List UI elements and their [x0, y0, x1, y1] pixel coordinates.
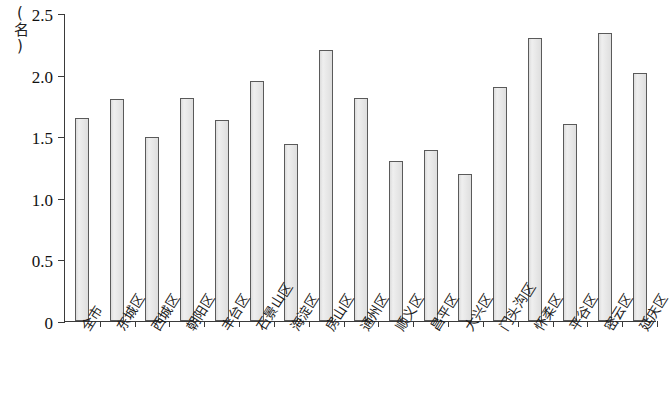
x-axis-labels: 全市东城区西城区朝阳区丰台区石景山区海淀区房山区通州区顺义区昌平区大兴区门头沟区…: [64, 326, 656, 403]
bar: [354, 98, 368, 321]
bar: [319, 50, 333, 321]
y-axis-tick: 1.0: [58, 199, 65, 200]
bar: [528, 38, 542, 321]
y-axis-tick: 2.5: [58, 14, 65, 15]
bar: [250, 81, 264, 321]
y-axis-tick-label: 0: [45, 315, 54, 332]
bar: [110, 99, 124, 321]
bar: [598, 33, 612, 321]
bar: [215, 120, 229, 321]
y-axis-tick: 0.5: [58, 260, 65, 261]
y-axis-unit-label: (名): [2, 4, 28, 55]
y-axis-tick-label: 1.0: [32, 191, 53, 208]
y-axis-tick-label: 2.0: [32, 68, 53, 85]
y-axis-tick: 1.5: [58, 137, 65, 138]
plot-area: 00.51.01.52.02.5: [64, 14, 656, 322]
bar: [180, 98, 194, 321]
y-axis-tick-label: 0.5: [32, 253, 53, 270]
bar: [563, 124, 577, 321]
bar: [75, 118, 89, 321]
bar: [145, 137, 159, 321]
y-axis-tick: 0: [58, 322, 65, 323]
y-axis-tick-label: 1.5: [32, 130, 53, 147]
bar: [389, 161, 403, 321]
bar: [424, 150, 438, 321]
bar: [493, 87, 507, 321]
bar: [633, 73, 647, 321]
y-axis-tick: 2.0: [58, 76, 65, 77]
y-axis-tick-label: 2.5: [32, 7, 53, 24]
